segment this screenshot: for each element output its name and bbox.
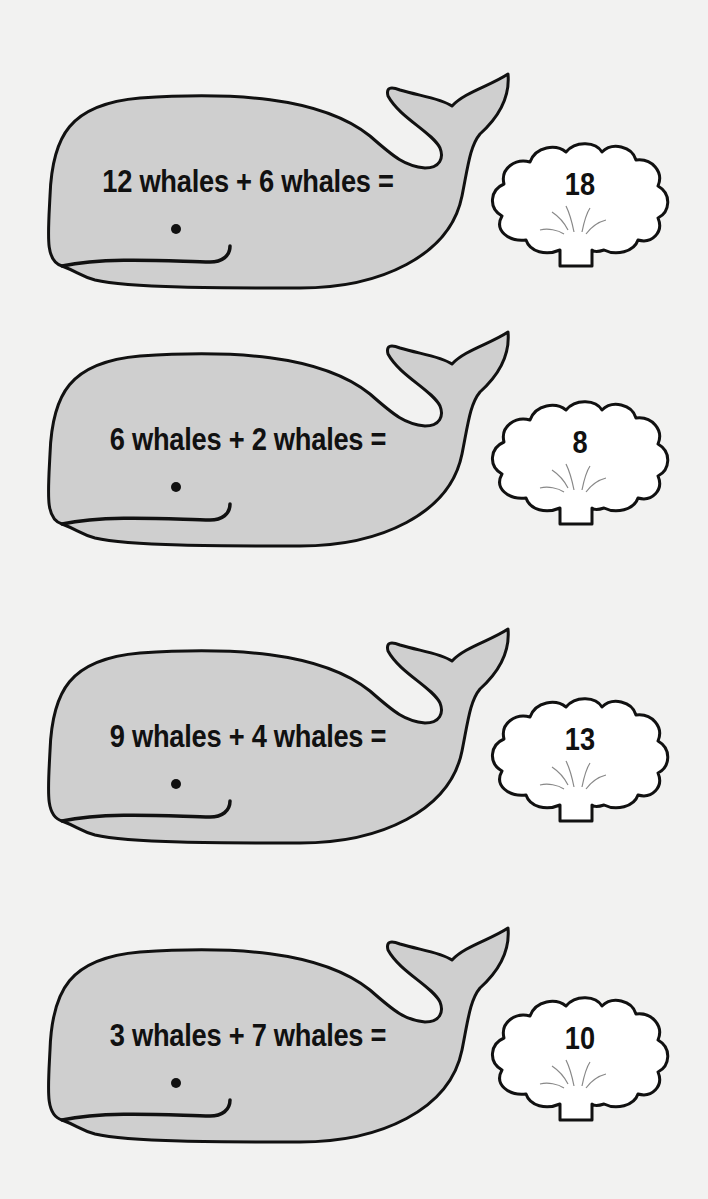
equation-text: 3 whales + 7 whales = [72, 1018, 424, 1054]
equation-text: 9 whales + 4 whales = [72, 719, 424, 755]
equation-text: 12 whales + 6 whales = [72, 164, 424, 200]
spout-cloud-icon [486, 134, 672, 274]
eye-icon [171, 1078, 181, 1088]
equation-text: 6 whales + 2 whales = [72, 422, 424, 458]
spout-cloud-icon [486, 689, 672, 829]
eye-icon [171, 224, 181, 234]
eye-icon [171, 779, 181, 789]
whale-problem: 12 whales + 6 whales = 18 [0, 66, 708, 326]
eye-icon [171, 482, 181, 492]
answer-text: 10 [504, 1020, 657, 1057]
whale-problem: 9 whales + 4 whales = 13 [0, 621, 708, 881]
spout-cloud-icon [486, 392, 672, 532]
spout-cloud-icon [486, 988, 672, 1128]
whale-problem: 6 whales + 2 whales = 8 [0, 324, 708, 584]
answer-text: 8 [504, 424, 657, 461]
whale-problem: 3 whales + 7 whales = 10 [0, 920, 708, 1180]
answer-text: 18 [504, 166, 657, 203]
answer-text: 13 [504, 721, 657, 758]
